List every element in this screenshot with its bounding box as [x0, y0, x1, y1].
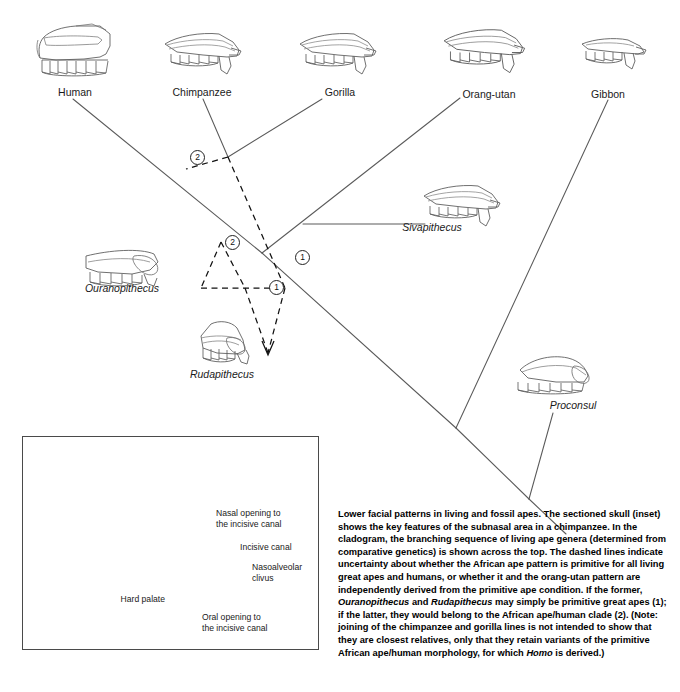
dashed-uncertainty-lines [186, 157, 285, 355]
skull-drawing-orangutan [444, 30, 525, 73]
node-marker-2-upper: 2 [190, 150, 205, 165]
dashed-upper-right [228, 157, 285, 288]
branch-backbone-lower [456, 428, 529, 499]
taxon-label-ouranopithecus: Ouranopithecus [85, 282, 159, 294]
inset-label-nasal-opening: Nasal opening to the incisive canal [216, 508, 281, 529]
inset-label-incisive-canal: Incisive canal [240, 542, 292, 553]
skull-drawing-human [37, 24, 110, 76]
skull-drawing-proconsul [518, 357, 589, 394]
taxon-label-proconsul: Proconsul [550, 399, 597, 411]
inset-label-hard-palate: Hard palate [95, 594, 165, 605]
taxon-label-orangutan: Orang-utan [462, 88, 515, 100]
skull-drawing-sivapithecus [424, 185, 500, 226]
dashed-lower-apex-left [201, 242, 221, 288]
inset-label-oral-opening: Oral opening to the incisive canal [202, 612, 267, 633]
skull-drawing-chimpanzee [165, 33, 241, 74]
dashed-v-right [268, 288, 285, 353]
branch-backbone-upper [262, 253, 456, 428]
skull-drawing-gibbon [582, 39, 646, 69]
node-marker-1-lower: 1 [269, 280, 284, 295]
node-marker-1-upper: 1 [295, 250, 310, 265]
branch-proconsul [529, 413, 553, 499]
taxon-label-gibbon: Gibbon [591, 88, 625, 100]
inset-label-oral-opening-line2: the incisive canal [202, 623, 267, 634]
inset-label-nasal-opening-line2: the incisive canal [216, 519, 281, 530]
node-marker-2-lower: 2 [225, 235, 240, 250]
taxon-label-human: Human [58, 86, 92, 98]
skull-drawing-ouranopithecus [86, 250, 158, 286]
skull-drawing-gorilla [300, 33, 376, 74]
inset-label-nasoalveolar-line2: clivus [252, 573, 302, 584]
figure-caption: Lower facial patterns in living and foss… [338, 508, 668, 659]
skull-drawing-rudapithecus [201, 322, 249, 364]
inset-label-nasoalveolar-clivus: Nasoalveolar clivus [252, 562, 302, 583]
inset-label-nasal-opening-line1: Nasal opening to [216, 508, 281, 519]
inset-label-oral-opening-line1: Oral opening to [202, 612, 267, 623]
branch-chimpanzee [203, 99, 228, 157]
taxon-label-gorilla: Gorilla [325, 86, 355, 98]
taxon-label-sivapithecus: Sivapithecus [402, 221, 462, 233]
dashed-v-left [245, 288, 268, 353]
branch-gorilla [228, 99, 322, 157]
taxon-label-chimpanzee: Chimpanzee [173, 86, 232, 98]
inset-label-nasoalveolar-line1: Nasoalveolar [252, 562, 302, 573]
branch-human [73, 99, 262, 253]
taxon-label-rudapithecus: Rudapithecus [190, 368, 254, 380]
figure-root: Human Chimpanzee Gorilla Orang-utan Gibb… [0, 0, 680, 692]
